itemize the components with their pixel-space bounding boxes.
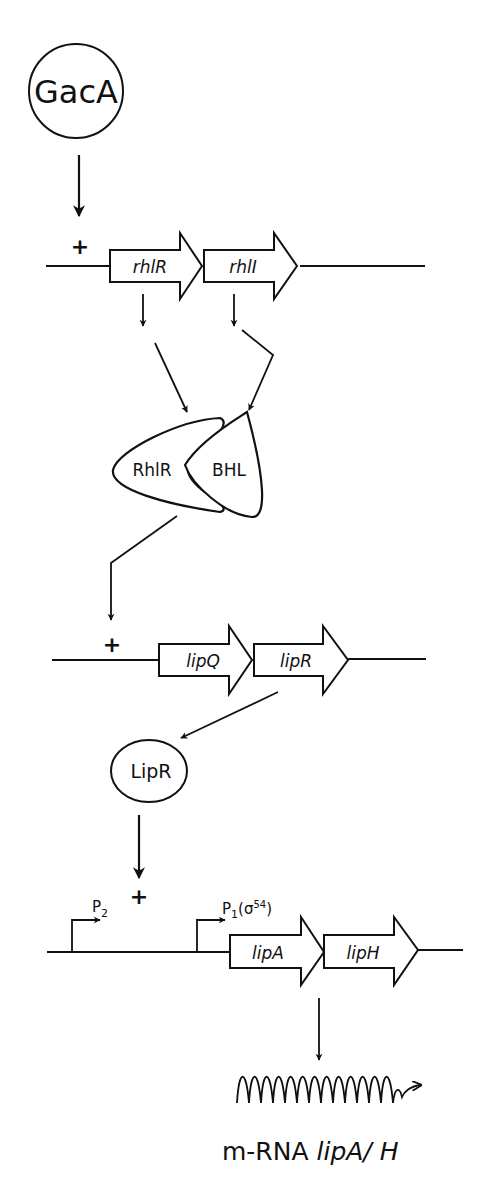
lipr-label: LipR xyxy=(130,760,171,782)
gene-label-lipQ: lipQ xyxy=(186,651,220,671)
plus-sign-1: + xyxy=(71,234,89,259)
mrna-genes: lipA/ H xyxy=(317,1137,399,1166)
rhlr-protein-label: RhlR xyxy=(132,460,171,480)
operon-lipA-lipH: + P2 P1(σ54) lipA lipH xyxy=(47,884,463,985)
gene-regulation-diagram: GacA + rhlR rhlI RhlR BHL + lipQ lipR xyxy=(0,0,482,1191)
lipR-translation-arrow xyxy=(181,692,278,738)
rhlr-bhl-complex: RhlR BHL xyxy=(113,412,262,517)
operon-rhlR-rhlI: + rhlR rhlI xyxy=(46,233,425,299)
rhlR-to-complex-arrow xyxy=(155,343,187,412)
mrna-wave xyxy=(237,1077,421,1103)
gene-label-rhlI: rhlI xyxy=(229,257,257,277)
plus-sign-2: + xyxy=(103,632,121,657)
gene-label-lipH: lipH xyxy=(346,943,379,963)
gene-label-lipA: lipA xyxy=(252,943,284,963)
mrna-label: m-RNA lipA/ H xyxy=(222,1137,399,1166)
lipr-node: LipR xyxy=(111,740,187,802)
gene-label-lipR: lipR xyxy=(280,651,312,671)
promoter-p1-arrow xyxy=(197,920,225,952)
gaca-label: GacA xyxy=(34,73,118,111)
promoter-p1-label: P1(σ54) xyxy=(222,899,272,921)
operon-lipQ-lipR: + lipQ lipR xyxy=(52,626,426,694)
promoter-p2-arrow xyxy=(72,920,100,952)
plus-sign-3: + xyxy=(130,884,148,909)
promoter-p2-label: P2 xyxy=(92,898,108,920)
mrna-prefix: m-RNA xyxy=(222,1137,317,1166)
bhl-to-complex-arrow xyxy=(242,330,273,410)
bhl-label: BHL xyxy=(212,460,246,480)
gene-label-rhlR: rhlR xyxy=(133,257,167,277)
gaca-node: GacA xyxy=(29,44,123,138)
complex-activation-arrow xyxy=(111,516,177,620)
